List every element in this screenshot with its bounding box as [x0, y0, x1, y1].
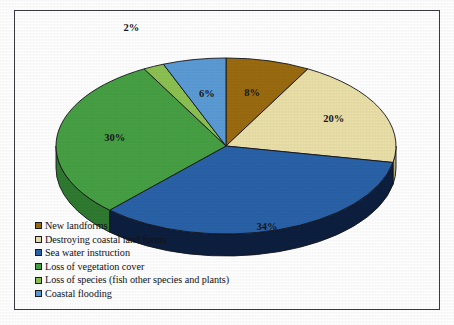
legend-item-label: Destroying coastal land forms — [45, 233, 166, 247]
pie-slice-label: 2% — [124, 22, 140, 33]
legend-item-label: New landforms — [45, 219, 107, 233]
pie-slice-label: 20% — [323, 113, 344, 124]
legend-item[interactable]: Destroying coastal land forms — [35, 233, 335, 247]
legend-item-label: Coastal flooding — [45, 287, 112, 301]
pie-slice-label: 8% — [244, 87, 260, 98]
legend-swatch-icon — [35, 249, 42, 256]
legend-item-label: Loss of vegetation cover — [45, 260, 144, 274]
legend-item[interactable]: Sea water instruction — [35, 246, 335, 260]
pie-slice-label: 30% — [104, 132, 125, 143]
legend-swatch-icon — [35, 263, 42, 270]
legend-item[interactable]: Loss of vegetation cover — [35, 260, 335, 274]
legend-swatch-icon — [35, 290, 42, 297]
legend-swatch-icon — [35, 222, 42, 229]
legend-item[interactable]: New landforms — [35, 219, 335, 233]
legend-item-label: Loss of species (fish other species and … — [45, 273, 229, 287]
legend-item[interactable]: Loss of species (fish other species and … — [35, 273, 335, 287]
legend-item-label: Sea water instruction — [45, 246, 130, 260]
chart-legend: New landformsDestroying coastal land for… — [35, 219, 335, 301]
pie-top-faces — [56, 58, 396, 234]
legend-swatch-icon — [35, 236, 42, 243]
legend-swatch-icon — [35, 277, 42, 284]
pie-slice-label: 6% — [199, 88, 215, 99]
chart-frame: 8%20%34%30%2%6% New landformsDestroying … — [14, 10, 440, 310]
legend-item[interactable]: Coastal flooding — [35, 287, 335, 301]
